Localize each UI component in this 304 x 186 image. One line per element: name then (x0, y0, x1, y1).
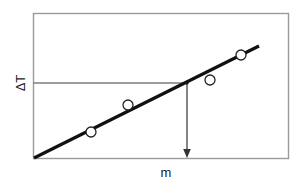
data-point-marker (123, 100, 133, 110)
y-axis-label: ΔT (13, 75, 28, 92)
intersection-point (185, 81, 188, 84)
data-point-marker (86, 127, 96, 137)
data-point-marker (205, 75, 215, 85)
x-axis-label: m (161, 165, 172, 180)
graph-figure: ΔT m (0, 0, 304, 186)
data-point-marker (236, 50, 246, 60)
